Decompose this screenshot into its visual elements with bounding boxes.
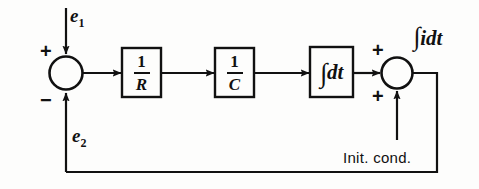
- right-summing-junction: [382, 58, 413, 89]
- initial-condition-label: Init. cond.: [343, 150, 411, 165]
- output-integrand: idt: [420, 26, 442, 50]
- gain-r-fraction-bar: [134, 72, 150, 74]
- right-sum-plus-sign-top: +: [372, 40, 384, 60]
- block-gain-r-label: 1 R: [122, 48, 161, 97]
- left-sum-plus-sign: +: [40, 41, 52, 61]
- integral-sign-icon: ∫: [320, 60, 327, 87]
- output-signal-label: ∫idt: [413, 24, 442, 50]
- block-integrator-label: ∫dt: [310, 47, 353, 97]
- left-sum-minus-sign: −: [40, 90, 52, 110]
- left-summing-junction: [50, 57, 83, 90]
- gain-c-denominator: C: [229, 75, 240, 93]
- integrator-differential: dt: [327, 62, 343, 83]
- gain-c-fraction-bar: [227, 72, 243, 74]
- gain-r-denominator: R: [136, 75, 147, 93]
- right-sum-plus-sign-bottom: +: [372, 86, 384, 106]
- feedback-signal-label: e2: [72, 126, 86, 149]
- gain-c-numerator: 1: [230, 53, 239, 71]
- gain-r-numerator: 1: [137, 53, 146, 71]
- block-diagram-canvas: e1 + − e2 1 R 1 C ∫dt + + ∫idt Init. con…: [0, 0, 479, 189]
- block-gain-c-label: 1 C: [215, 48, 254, 97]
- input-signal-label: e1: [70, 6, 84, 29]
